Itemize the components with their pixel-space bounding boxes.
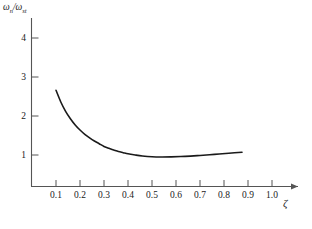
x-tick-label-0-9: 0.9 (235, 190, 261, 200)
x-tick-label-0-6: 0.6 (163, 190, 189, 200)
y-tick-label-3: 3 (12, 72, 26, 82)
y-axis-ticks (32, 38, 39, 155)
x-axis-ticks (56, 180, 272, 187)
x-tick-label-0-2: 0.2 (67, 190, 93, 200)
y-axis-label-numerator: ω (3, 2, 10, 12)
figure-canvas: ωn/ωst ζ 1 2 3 4 0.1 0.2 0.3 0.4 0.5 0.6… (0, 0, 312, 229)
x-tick-label-0-3: 0.3 (91, 190, 117, 200)
x-tick-label-0-7: 0.7 (187, 190, 213, 200)
y-axis-label: ωn/ωst (3, 2, 27, 16)
x-axis-arrow-icon (291, 184, 298, 190)
x-tick-label-0-4: 0.4 (115, 190, 141, 200)
x-tick-label-0-1: 0.1 (43, 190, 69, 200)
y-axis-label-denominator-sub: st (22, 7, 26, 14)
x-tick-label-0-5: 0.5 (139, 190, 165, 200)
y-tick-label-1: 1 (12, 150, 26, 160)
x-tick-label-1-0: 1.0 (259, 190, 285, 200)
data-curve (56, 90, 242, 157)
y-tick-label-4: 4 (12, 33, 26, 43)
y-tick-label-2: 2 (12, 111, 26, 121)
x-tick-label-0-8: 0.8 (211, 190, 237, 200)
